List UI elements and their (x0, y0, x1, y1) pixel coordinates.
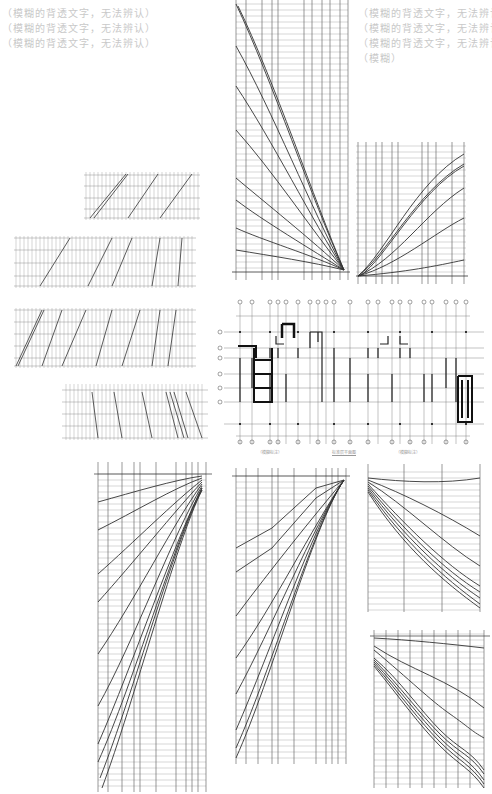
floor-plan-caption-left: （模糊标注） (258, 449, 282, 455)
bleed-line: （模糊的背透文字，无法辨认） (2, 6, 230, 21)
floor-plan-caption-right: （模糊标注） (396, 449, 420, 455)
chart-bottom-left (94, 462, 212, 792)
floor-plan-title: 标准层平面图 (332, 449, 356, 455)
columns (239, 331, 467, 425)
axis-bubbles-left (218, 330, 222, 404)
chart-bottom-right-1 (364, 464, 488, 612)
bleed-text-right: （模糊的背透文字，无法辨认） （模糊的背透文字，无法辨认） （模糊的背透文字，无… (358, 6, 492, 66)
bleed-line: （模糊的背透文字，无法辨认） (358, 21, 492, 36)
chart-left-4 (62, 384, 212, 440)
bleed-line: （模糊的背透文字，无法辨认） (2, 36, 230, 51)
floor-plan (214, 296, 492, 446)
stair-core (238, 346, 472, 422)
bleed-line: （模糊的背透文字，无法辨认） (358, 6, 492, 21)
chart-left-3 (14, 308, 200, 368)
chart-bottom-center (232, 468, 350, 768)
bleed-line: （模糊） (358, 51, 492, 66)
chart-top-right (356, 142, 468, 284)
chart-bottom-right-2 (370, 630, 490, 794)
chart-left-2 (14, 236, 200, 288)
axis-bubbles-bottom (238, 440, 468, 444)
bleed-line: （模糊的背透文字，无法辨认） (358, 36, 492, 51)
chart-left-1 (84, 172, 204, 222)
chart-top-center (232, 0, 350, 280)
chart-series (236, 4, 344, 270)
bleed-line: （模糊的背透文字，无法辨认） (2, 21, 230, 36)
axis-bubbles-top (238, 300, 468, 304)
bleed-text-left: （模糊的背透文字，无法辨认） （模糊的背透文字，无法辨认） （模糊的背透文字，无… (2, 6, 230, 51)
